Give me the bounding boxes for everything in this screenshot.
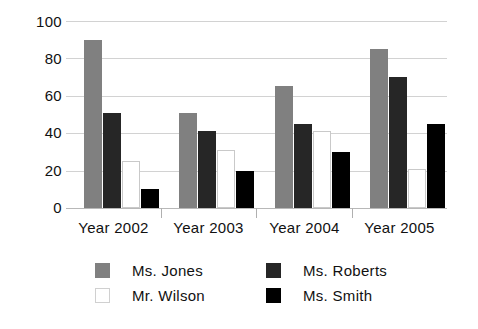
y-tick-label-40: 40 [18,125,62,140]
y-axis: 100 80 60 40 20 0 [18,0,62,215]
bar-2002-ms-jones[interactable] [84,40,102,208]
bar-2003-ms-smith[interactable] [236,171,254,208]
x-tick-divider-3 [352,208,353,218]
chart-legend: Ms. Jones Ms. Roberts Mr. Wilson Ms. Smi… [95,260,395,308]
bar-2003-mr-wilson[interactable] [217,150,235,208]
legend-swatch-ms-smith-icon [266,288,281,303]
grouped-bar-chart: 100 80 60 40 20 0 [0,0,478,329]
x-axis-labels: Year 2002 Year 2003 Year 2004 Year 2005 [66,219,447,243]
legend-swatch-ms-jones-icon [95,263,110,278]
bar-2002-ms-smith[interactable] [141,189,159,208]
bar-2004-mr-wilson[interactable] [313,131,331,208]
bar-2003-ms-jones[interactable] [179,113,197,208]
y-tick-label-0: 0 [18,200,62,215]
legend-swatch-mr-wilson-icon [95,288,110,303]
x-label-year-2002: Year 2002 [66,219,161,237]
bar-2005-ms-roberts[interactable] [389,77,407,208]
x-label-year-2004: Year 2004 [257,219,352,237]
plot-wrapper: 100 80 60 40 20 0 [0,0,478,215]
bar-group-year-2002 [84,21,161,208]
bar-2004-ms-roberts[interactable] [294,124,312,208]
x-label-year-2003: Year 2003 [161,219,256,237]
y-tick-label-60: 60 [18,88,62,103]
legend-item-ms-smith[interactable]: Ms. Smith [266,285,372,305]
bar-2002-ms-roberts[interactable] [103,113,121,208]
x-tick-divider-1 [161,208,162,218]
bar-group-year-2003 [179,21,256,208]
y-tick-label-100: 100 [18,14,62,29]
bar-group-year-2004 [275,21,352,208]
bar-2005-ms-smith[interactable] [427,124,445,208]
bar-2005-mr-wilson[interactable] [408,169,426,208]
legend-item-ms-jones[interactable]: Ms. Jones [95,260,203,280]
legend-item-mr-wilson[interactable]: Mr. Wilson [95,285,205,305]
legend-item-ms-roberts[interactable]: Ms. Roberts [266,260,387,280]
bar-2004-ms-smith[interactable] [332,152,350,208]
bar-2002-mr-wilson[interactable] [122,161,140,208]
legend-swatch-ms-roberts-icon [266,263,281,278]
x-label-year-2005: Year 2005 [352,219,447,237]
plot-area [66,21,447,208]
bar-2004-ms-jones[interactable] [275,86,293,208]
legend-label-mr-wilson: Mr. Wilson [132,288,205,303]
legend-label-ms-jones: Ms. Jones [132,263,203,278]
bar-2003-ms-roberts[interactable] [198,131,216,208]
y-tick-label-80: 80 [18,51,62,66]
bar-2005-ms-jones[interactable] [370,49,388,208]
y-tick-label-20: 20 [18,163,62,178]
legend-label-ms-smith: Ms. Smith [303,288,372,303]
legend-label-ms-roberts: Ms. Roberts [303,263,387,278]
bar-group-year-2005 [370,21,447,208]
x-tick-divider-2 [256,208,257,218]
